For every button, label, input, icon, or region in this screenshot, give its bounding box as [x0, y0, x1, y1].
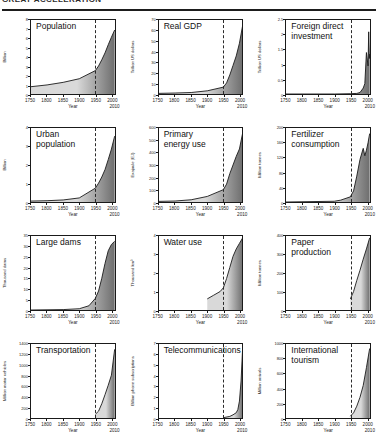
y-tick-mark — [283, 343, 285, 344]
y-tick-mark — [28, 386, 30, 387]
chart-panel: 0510152025303517501800185019001950200020… — [0, 229, 128, 337]
y-tick-mark — [28, 257, 30, 258]
y-tick-mark — [283, 358, 285, 359]
x-tick-label: 1800 — [169, 206, 179, 211]
y-tick-mark — [156, 254, 158, 255]
x-tick-label: 1800 — [41, 314, 51, 319]
x-tick-label: 1800 — [297, 98, 307, 103]
y-tick-mark — [28, 67, 30, 68]
y-tick-label: 800 — [21, 373, 28, 378]
x-tick-mark — [318, 203, 319, 205]
x-tick-mark — [158, 95, 159, 97]
x-tick-label: 1750 — [153, 422, 163, 427]
y-tick-mark — [156, 73, 158, 74]
marker-line-1950 — [351, 236, 352, 310]
x-tick-label: 1750 — [25, 422, 35, 427]
x-tick-label: 1900 — [330, 314, 340, 319]
panel-title: Primary energy use — [164, 130, 206, 149]
y-tick-mark — [28, 354, 30, 355]
y-tick-mark — [156, 30, 158, 31]
x-tick-mark — [207, 419, 208, 421]
y-tick-mark — [283, 34, 285, 35]
x-tick-mark — [174, 203, 175, 205]
y-tick-mark — [283, 19, 285, 20]
y-axis-title: Exajoule (EJ) — [127, 127, 137, 203]
y-tick-label: 500 — [149, 137, 156, 142]
x-tick-mark — [30, 203, 31, 205]
x-tick-label: 1950 — [218, 206, 228, 211]
x-tick-label: 1850 — [313, 422, 323, 427]
y-tick-label: 600 — [149, 125, 156, 130]
panel-title: Urban population — [36, 130, 75, 149]
y-tick-label: 400 — [21, 395, 28, 400]
x-tick-mark — [191, 419, 192, 421]
x-tick-mark — [96, 311, 97, 313]
x-tick-mark — [112, 311, 113, 313]
y-tick-mark — [156, 190, 158, 191]
y-tick-mark — [283, 254, 285, 255]
x-tick-label: 2000 — [235, 314, 245, 319]
x-tick-mark — [302, 203, 303, 205]
x-tick-mark — [63, 311, 64, 313]
x-tick-label: 1900 — [74, 422, 84, 427]
y-tick-mark — [28, 289, 30, 290]
y-tick-mark — [283, 65, 285, 66]
x-tick-label: 1750 — [280, 98, 290, 103]
y-tick-mark — [28, 300, 30, 301]
x-tick-label: 2000 — [235, 422, 245, 427]
panel-title: Transportation — [36, 346, 91, 356]
x-axis-title: Year — [285, 104, 371, 109]
header-divider — [2, 9, 376, 11]
great-acceleration-figure: GREAT ACCELERATION 012345678175018001850… — [0, 0, 383, 445]
x-tick-label: 1900 — [330, 422, 340, 427]
x-tick-label: 1950 — [218, 314, 228, 319]
y-axis-title: Billion phone subscriptions — [127, 343, 137, 419]
y-tick-mark — [28, 268, 30, 269]
x-tick-label: 2000 — [363, 206, 373, 211]
y-axis-title: Trillion US dollars — [254, 19, 264, 95]
y-tick-mark — [28, 246, 30, 247]
y-tick-mark — [28, 38, 30, 39]
x-tick-label: 1750 — [280, 422, 290, 427]
y-tick-label: 1000 — [19, 362, 28, 367]
x-tick-label: 1850 — [185, 422, 195, 427]
x-tick-mark — [46, 95, 47, 97]
x-axis-title: Year — [30, 104, 116, 109]
x-tick-label: 1800 — [169, 314, 179, 319]
x-axis-title: Year — [30, 212, 116, 217]
y-axis-title: Million motor vehicles — [0, 343, 9, 419]
y-tick-mark — [283, 80, 285, 81]
x-tick-label: 1950 — [346, 206, 356, 211]
x-tick-mark — [191, 203, 192, 205]
y-tick-label: 400 — [277, 233, 284, 238]
y-tick-mark — [156, 365, 158, 366]
y-tick-mark — [28, 48, 30, 49]
y-tick-mark — [156, 41, 158, 42]
x-tick-mark — [191, 95, 192, 97]
y-tick-mark — [156, 84, 158, 85]
x-tick-mark — [240, 419, 241, 421]
y-tick-label: 1400 — [19, 341, 28, 346]
y-axis-title: Trillion US dollars — [127, 19, 137, 95]
chart-panel: 0200400600800100012001400175018001850190… — [0, 337, 128, 445]
x-tick-label: 1800 — [41, 206, 51, 211]
x-tick-mark — [96, 95, 97, 97]
y-tick-mark — [156, 152, 158, 153]
x-tick-mark — [112, 419, 113, 421]
x-tick-label: 1750 — [280, 206, 290, 211]
x-tick-label: 1900 — [74, 98, 84, 103]
y-tick-label: 200 — [277, 125, 284, 130]
x-tick-mark — [158, 419, 159, 421]
panel-title: Foreign direct investment — [291, 22, 343, 41]
y-tick-mark — [156, 127, 158, 128]
x-tick-label: 1750 — [153, 98, 163, 103]
y-tick-mark — [283, 142, 285, 143]
x-tick-mark — [174, 419, 175, 421]
x-axis-title: Year — [285, 212, 371, 217]
x-tick-mark — [207, 95, 208, 97]
x-tick-mark — [96, 203, 97, 205]
y-tick-mark — [156, 165, 158, 166]
x-tick-mark — [158, 311, 159, 313]
x-tick-mark — [224, 203, 225, 205]
y-tick-mark — [156, 408, 158, 409]
